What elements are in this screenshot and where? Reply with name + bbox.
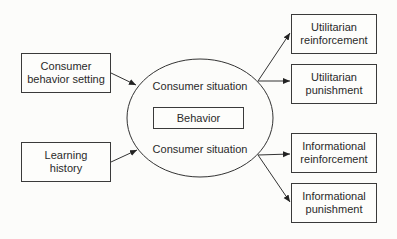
- arrow-history-to-situation: [111, 150, 137, 162]
- consumer-behavior-setting-box: Consumer behavior setting: [21, 53, 111, 93]
- arrow-to-informational-punishment: [258, 155, 290, 202]
- learning-history-box: Learning history: [21, 142, 111, 182]
- consumer-situation-top-label: Consumer situation: [150, 80, 250, 92]
- consumer-situation-bottom-label: Consumer situation: [150, 143, 250, 155]
- arrow-setting-to-situation: [111, 73, 136, 85]
- utilitarian-punishment-box: Utilitarian punishment: [291, 64, 377, 104]
- informational-punishment-box: Informational punishment: [291, 183, 377, 223]
- informational-reinforcement-box: Informational reinforcement: [291, 133, 377, 173]
- arrow-to-informational-reinforcement: [258, 154, 290, 155]
- utilitarian-reinforcement-box: Utilitarian reinforcement: [291, 14, 377, 54]
- behavior-box: Behavior: [153, 107, 244, 129]
- arrow-to-utilitarian-reinforcement: [258, 33, 290, 81]
- diagram-canvas: Consumer behavior setting Learning histo…: [0, 0, 397, 239]
